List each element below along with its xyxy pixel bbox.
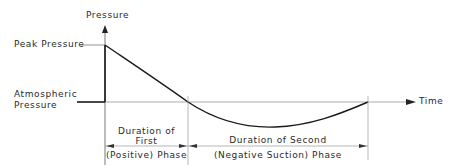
positive-phase-curve <box>105 45 188 102</box>
second-phase-line2: (Negative Suction) Phase <box>188 150 368 161</box>
pressure-time-diagram: Pressure Peak Pressure Atmospheric Press… <box>0 0 452 168</box>
negative-phase-curve <box>188 102 368 127</box>
second-phase-line1: Duration of Second <box>188 135 368 146</box>
atmospheric-label-line2: Pressure <box>14 100 57 111</box>
atmospheric-label-line1: Atmospheric <box>14 89 77 100</box>
time-axis-label: Time <box>419 96 443 107</box>
first-phase-line3: (Positive) Phase <box>105 150 188 161</box>
pressure-axis-arrow-icon <box>102 25 108 33</box>
first-phase-line2: First <box>105 136 188 147</box>
pressure-axis-label: Pressure <box>86 10 129 21</box>
peak-pressure-label: Peak Pressure <box>14 39 84 50</box>
time-axis-arrow-icon <box>406 99 416 105</box>
